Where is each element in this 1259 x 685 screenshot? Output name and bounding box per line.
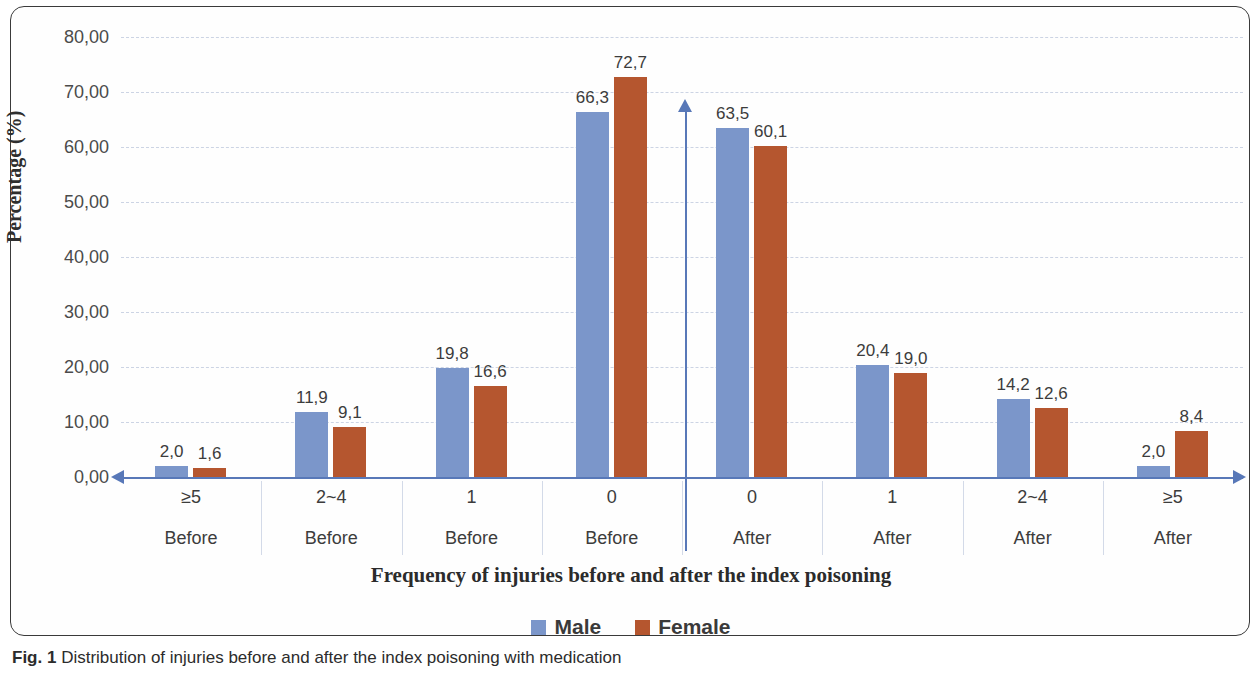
bar-male[interactable] xyxy=(997,399,1030,477)
legend-label: Female xyxy=(658,615,730,639)
bar-value-label: 1,6 xyxy=(187,444,233,464)
x-category-frequency-label: ≥5 xyxy=(121,487,261,508)
bar-female[interactable] xyxy=(894,373,927,478)
bar-value-label: 16,6 xyxy=(467,362,513,382)
bar-female[interactable] xyxy=(193,468,226,477)
x-category-5: 1After xyxy=(822,479,962,557)
bar-group: 20,419,0 xyxy=(822,37,962,477)
bar-female[interactable] xyxy=(1175,431,1208,477)
bar-group: 11,99,1 xyxy=(261,37,401,477)
chart-legend: MaleFemale xyxy=(11,615,1251,639)
bar-value-label: 60,1 xyxy=(748,122,794,142)
bar-female[interactable] xyxy=(333,427,366,477)
bar-group: 2,01,6 xyxy=(121,37,261,477)
x-category-7: ≥5After xyxy=(1103,479,1243,557)
bar-female[interactable] xyxy=(474,386,507,477)
x-category-period-label: After xyxy=(822,528,962,549)
x-category-period-label: Before xyxy=(402,528,542,549)
bar-group: 2,08,4 xyxy=(1103,37,1243,477)
bar-female[interactable] xyxy=(754,146,787,477)
x-category-1: 2~4Before xyxy=(261,479,401,557)
y-axis-tick-label: 50,00 xyxy=(13,192,109,213)
bar-male[interactable] xyxy=(436,368,469,477)
x-category-0: ≥5Before xyxy=(121,479,261,557)
x-category-period-label: Before xyxy=(261,528,401,549)
bar-value-label: 9,1 xyxy=(327,403,373,423)
y-axis-tick-label: 60,00 xyxy=(13,137,109,158)
bar-value-label: 8,4 xyxy=(1168,407,1214,427)
y-axis-tick-label: 0,00 xyxy=(13,467,109,488)
y-axis-title: Percentage (%) xyxy=(3,111,26,243)
bar-group: 66,372,7 xyxy=(542,37,682,477)
bar-group: 19,816,6 xyxy=(402,37,542,477)
legend-swatch-icon xyxy=(635,620,650,635)
bar-group: 63,560,1 xyxy=(682,37,822,477)
x-category-2: 1Before xyxy=(402,479,542,557)
bar-group: 14,212,6 xyxy=(963,37,1103,477)
bar-value-label: 2,0 xyxy=(1130,442,1176,462)
x-category-labels: ≥5Before2~4Before1Before0Before0After1Af… xyxy=(121,479,1243,557)
bar-male[interactable] xyxy=(155,466,188,477)
legend-item-male[interactable]: Male xyxy=(531,615,601,639)
bar-value-label: 66,3 xyxy=(569,88,615,108)
x-category-4: 0After xyxy=(682,479,822,557)
figure-caption: Fig. 1 Distribution of injuries before a… xyxy=(12,648,1242,668)
bar-female[interactable] xyxy=(1035,408,1068,477)
bar-value-label: 63,5 xyxy=(710,104,756,124)
y-axis-tick-label: 70,00 xyxy=(13,82,109,103)
x-category-6: 2~4After xyxy=(963,479,1103,557)
bar-value-label: 12,6 xyxy=(1028,384,1074,404)
x-category-frequency-label: 1 xyxy=(402,487,542,508)
legend-label: Male xyxy=(554,615,601,639)
figure-frame: Percentage (%) 80,0070,0060,0050,0040,00… xyxy=(10,6,1250,636)
y-axis-tick-label: 20,00 xyxy=(13,357,109,378)
x-category-period-label: After xyxy=(1103,528,1243,549)
bar-male[interactable] xyxy=(1137,466,1170,477)
legend-item-female[interactable]: Female xyxy=(635,615,730,639)
y-axis-tick-label: 30,00 xyxy=(13,302,109,323)
x-category-3: 0Before xyxy=(542,479,682,557)
x-category-period-label: After xyxy=(963,528,1103,549)
x-category-frequency-label: ≥5 xyxy=(1103,487,1243,508)
center-axis-up-arrow-icon xyxy=(678,99,692,112)
bar-male[interactable] xyxy=(576,112,609,477)
caption-figure-number: Fig. 1 xyxy=(12,648,56,667)
x-axis-title: Frequency of injuries before and after t… xyxy=(11,563,1251,588)
bar-value-label: 72,7 xyxy=(607,53,653,73)
x-category-period-label: Before xyxy=(121,528,261,549)
x-category-frequency-label: 1 xyxy=(822,487,962,508)
bar-male[interactable] xyxy=(295,412,328,477)
bar-male[interactable] xyxy=(856,365,889,477)
bar-value-label: 19,0 xyxy=(888,349,934,369)
x-category-period-label: Before xyxy=(542,528,682,549)
bar-male[interactable] xyxy=(716,128,749,477)
x-category-frequency-label: 0 xyxy=(682,487,822,508)
y-axis-tick-label: 10,00 xyxy=(13,412,109,433)
x-category-frequency-label: 0 xyxy=(542,487,682,508)
x-category-frequency-label: 2~4 xyxy=(261,487,401,508)
bar-female[interactable] xyxy=(614,77,647,477)
caption-text: Distribution of injuries before and afte… xyxy=(61,648,621,667)
legend-swatch-icon xyxy=(531,620,546,635)
y-axis-tick-label: 80,00 xyxy=(13,27,109,48)
x-category-period-label: After xyxy=(682,528,822,549)
y-axis-tick-label: 40,00 xyxy=(13,247,109,268)
x-category-frequency-label: 2~4 xyxy=(963,487,1103,508)
